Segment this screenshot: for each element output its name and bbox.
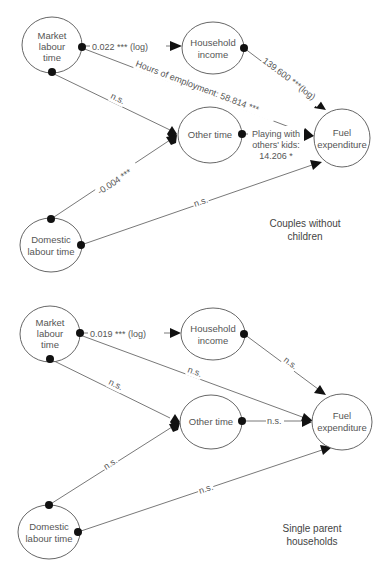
svg-text:Fuel: Fuel — [333, 410, 351, 421]
node-domestic-labour-time: Domestic labour time — [18, 505, 80, 559]
edge-label-other-fuel-2: others' kids: — [252, 140, 300, 150]
path-origin-dot — [240, 44, 248, 52]
edge-label-domestic-other: n.s. — [102, 455, 120, 471]
svg-text:time: time — [41, 339, 59, 350]
svg-text:Domestic: Domestic — [29, 521, 69, 532]
edge-label-market-income: 0.022 *** (log) — [92, 42, 148, 52]
panel-couples-without-children: 0.022 *** (log) Hours of employment: 58.… — [20, 17, 370, 272]
path-origin-dot — [74, 528, 82, 536]
node-market-labour-time: Market labour time — [20, 306, 80, 362]
arrow-head-icon — [170, 328, 181, 338]
panel-title-line2: households — [286, 536, 337, 547]
svg-text:expenditure: expenditure — [317, 139, 367, 150]
svg-text:income: income — [198, 49, 229, 60]
path-origin-dot — [76, 329, 84, 337]
diamond-head-icon — [166, 135, 177, 145]
svg-text:labour time: labour time — [28, 246, 75, 257]
arrow-head-icon — [310, 160, 322, 170]
svg-text:Other time: Other time — [189, 416, 233, 427]
node-fuel-expenditure: Fuel expenditure — [312, 394, 372, 450]
panel-title-line1: Single parent — [283, 523, 342, 534]
path-origin-dot — [77, 241, 85, 249]
edge-label-market-other: n.s. — [109, 91, 126, 106]
svg-text:Other time: Other time — [188, 129, 232, 140]
edge-label-other-fuel-1: Playing with — [252, 129, 300, 139]
edge-label-income-fuel: 139.600 ***(log) — [261, 56, 318, 102]
panel-single-parent-households: 0.019 *** (log) n.s. n.s. n.s. n.s. n.s. — [18, 306, 372, 559]
edge-label-other-fuel-3: 14.206 * — [259, 151, 293, 161]
svg-text:Domestic: Domestic — [31, 234, 71, 245]
path-diagram: 0.022 *** (log) Hours of employment: 58.… — [0, 0, 390, 568]
svg-text:Household: Household — [190, 37, 235, 48]
edge-label-domestic-fuel: n.s. — [192, 195, 209, 209]
svg-text:time: time — [43, 52, 61, 63]
svg-text:labour time: labour time — [26, 533, 73, 544]
node-other-time: Other time — [178, 107, 242, 163]
svg-text:Market: Market — [37, 30, 66, 41]
path-origin-dot — [78, 43, 86, 51]
svg-text:Market: Market — [35, 317, 64, 328]
edge-income-fuel — [244, 334, 318, 389]
edge-label-market-other: n.s. — [107, 377, 124, 392]
path-origin-dot — [45, 501, 53, 509]
path-origin-dot — [238, 130, 246, 138]
svg-text:income: income — [198, 335, 229, 346]
svg-text:expenditure: expenditure — [317, 422, 367, 433]
node-fuel-expenditure: Fuel expenditure — [314, 109, 370, 167]
node-domestic-labour-time: Domestic labour time — [20, 218, 82, 272]
edge-market-other — [50, 359, 170, 418]
node-household-income: Household income — [182, 22, 244, 74]
node-other-time: Other time — [180, 395, 242, 449]
panel-title-line1: Couples without — [269, 218, 340, 229]
path-origin-dot — [238, 417, 246, 425]
edge-label-market-income: 0.019 *** (log) — [90, 329, 146, 339]
edge-label-other-fuel: n.s. — [267, 416, 282, 426]
edge-label-domestic-fuel: n.s. — [197, 482, 214, 496]
node-household-income: Household income — [181, 308, 245, 360]
arrow-head-icon — [314, 385, 326, 395]
path-origin-dot — [46, 355, 54, 363]
path-origin-dot — [240, 330, 248, 338]
svg-text:Fuel: Fuel — [333, 127, 351, 138]
arrow-head-icon — [170, 41, 182, 51]
svg-text:labour: labour — [39, 41, 65, 52]
edge-label-income-fuel: n.s. — [282, 355, 300, 372]
path-origin-dot — [47, 215, 55, 223]
svg-text:labour: labour — [37, 328, 63, 339]
svg-text:Household: Household — [190, 323, 235, 334]
edge-label-domestic-other: -0.004 *** — [96, 167, 134, 197]
panel-title-line2: children — [287, 231, 322, 242]
node-market-labour-time: Market labour time — [22, 17, 82, 73]
path-origin-dot — [48, 68, 56, 76]
